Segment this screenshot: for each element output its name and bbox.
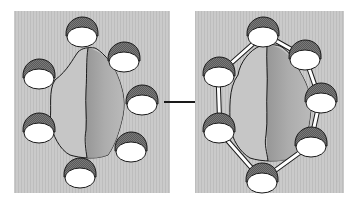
figure	[0, 0, 355, 205]
particle	[115, 132, 147, 162]
particle	[203, 57, 235, 87]
panel-before	[14, 11, 170, 193]
particle	[203, 113, 235, 143]
particle	[23, 59, 55, 89]
particle	[66, 17, 98, 47]
particle	[247, 17, 279, 47]
particle	[246, 163, 278, 193]
particle	[108, 42, 140, 72]
particle	[289, 40, 321, 70]
particle	[295, 127, 327, 157]
panel-after	[195, 11, 344, 193]
particle	[64, 158, 96, 188]
particle	[305, 83, 337, 113]
particle	[23, 113, 55, 143]
particle	[126, 85, 158, 115]
